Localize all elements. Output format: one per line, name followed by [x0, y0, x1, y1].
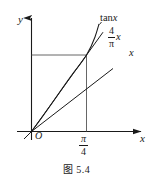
fraction-denominator: π: [108, 39, 115, 49]
figure-container: y x O tanx 4 π x x π 4 图 5.4: [0, 0, 153, 180]
curve-label-tan: tanx: [100, 13, 118, 24]
y-axis-label: y: [18, 14, 23, 25]
x-tick-label-pi-over-4: π 4: [79, 134, 88, 157]
tick-denominator: 4: [81, 147, 86, 157]
figure-caption: 图 5.4: [0, 161, 153, 176]
origin-label: O: [35, 131, 42, 141]
tick-numerator: π: [81, 134, 86, 144]
fraction-numerator: 4: [108, 26, 115, 36]
curve-label-identity: x: [129, 48, 134, 59]
linear-scaled-variable: x: [116, 32, 121, 43]
plot-canvas: [0, 0, 153, 180]
tan-variable: x: [113, 12, 118, 23]
fraction-four-over-pi: 4 π: [108, 26, 115, 49]
curve-identity: [32, 69, 114, 132]
curve-tan: [32, 24, 100, 132]
x-axis-label: x: [140, 133, 145, 144]
origin-stub: [24, 132, 32, 140]
tan-prefix: tan: [100, 12, 113, 23]
curve-label-linear-scaled: 4 π x: [108, 26, 121, 49]
